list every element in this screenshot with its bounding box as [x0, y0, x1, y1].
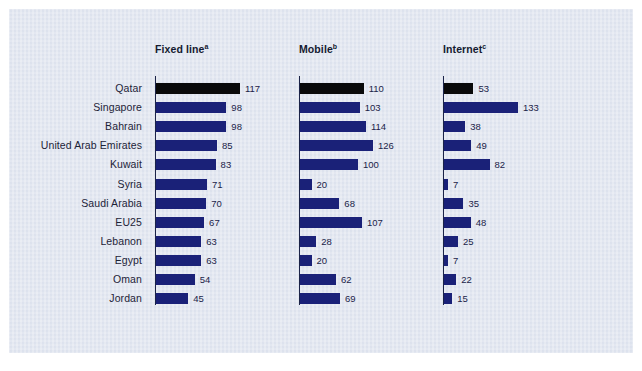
bar-value-label: 7: [453, 175, 458, 194]
bar-value-label: 69: [345, 289, 356, 308]
bar: [156, 198, 206, 209]
category-label: United Arab Emirates: [9, 136, 142, 155]
bar: [156, 255, 201, 266]
bar-value-label: 117: [245, 79, 260, 98]
bar-value-label: 85: [222, 136, 233, 155]
bar-value-label: 20: [317, 175, 328, 194]
category-label: Kuwait: [9, 155, 142, 174]
bar-value-label: 103: [365, 98, 381, 117]
panel-title-text: Mobile: [299, 43, 333, 55]
panel-title-internet: Internetc: [443, 43, 486, 55]
bar: [156, 217, 204, 228]
panel-title-mobile: Mobileb: [299, 43, 337, 55]
bar: [300, 198, 339, 209]
bar-value-label: 63: [206, 251, 217, 270]
panel-title-text: Fixed line: [155, 43, 204, 55]
bar: [156, 121, 226, 132]
panel-footnote-marker: c: [482, 43, 486, 50]
bar: [156, 274, 195, 285]
bar-value-label: 126: [378, 136, 394, 155]
chart-figure: QatarSingaporeBahrainUnited Arab Emirate…: [9, 9, 633, 353]
bar: [300, 217, 362, 228]
category-label: Oman: [9, 270, 142, 289]
bar-value-label: 53: [478, 79, 489, 98]
bar-value-label: 82: [495, 155, 506, 174]
bar: [444, 159, 490, 170]
bar-value-label: 107: [367, 213, 383, 232]
bar-value-label: 71: [212, 175, 223, 194]
bar: [444, 179, 448, 190]
bar: [300, 159, 358, 170]
bar-value-label: 45: [193, 289, 204, 308]
bar: [300, 140, 373, 151]
bar: [156, 179, 207, 190]
bar: [300, 121, 366, 132]
bar-value-label: 35: [468, 194, 479, 213]
category-label: EU25: [9, 213, 142, 232]
bar: [300, 293, 340, 304]
bar-value-label: 38: [470, 117, 481, 136]
bar-value-label: 98: [231, 98, 242, 117]
bar-value-label: 70: [211, 194, 222, 213]
panel-footnote-marker: b: [333, 43, 337, 50]
bar-value-label: 67: [209, 213, 220, 232]
bar: [156, 293, 188, 304]
panel-title-text: Internet: [443, 43, 482, 55]
bar: [300, 83, 364, 94]
bar: [300, 236, 316, 247]
bar-value-label: 100: [363, 155, 379, 174]
category-label: Egypt: [9, 251, 142, 270]
bar-value-label: 7: [453, 251, 458, 270]
bar: [300, 274, 336, 285]
bar: [444, 293, 452, 304]
panel-title-fixed-line: Fixed linea: [155, 43, 208, 55]
bar: [300, 255, 312, 266]
bar: [444, 255, 448, 266]
bar: [444, 236, 458, 247]
bar: [444, 121, 465, 132]
category-label: Lebanon: [9, 232, 142, 251]
category-label: Saudi Arabia: [9, 194, 142, 213]
bar: [156, 102, 226, 113]
bar: [444, 83, 473, 94]
category-label: Syria: [9, 175, 142, 194]
bar-value-label: 48: [476, 213, 487, 232]
bar-value-label: 54: [200, 270, 211, 289]
bar-value-label: 98: [231, 117, 242, 136]
bar: [300, 102, 360, 113]
bar: [156, 140, 217, 151]
bar-value-label: 63: [206, 232, 217, 251]
bar-value-label: 83: [221, 155, 232, 174]
category-label: Singapore: [9, 98, 142, 117]
bar: [444, 140, 471, 151]
bar-value-label: 28: [321, 232, 332, 251]
bar-value-label: 114: [371, 117, 386, 136]
category-label: Qatar: [9, 79, 142, 98]
bar-value-label: 49: [476, 136, 487, 155]
bar-value-label: 15: [457, 289, 468, 308]
bar-value-label: 25: [463, 232, 474, 251]
bar-value-label: 133: [523, 98, 539, 117]
bar-value-label: 110: [369, 79, 384, 98]
bar: [444, 198, 463, 209]
bar-value-label: 20: [317, 251, 328, 270]
panel-footnote-marker: a: [204, 43, 208, 50]
category-label: Bahrain: [9, 117, 142, 136]
bar: [156, 83, 240, 94]
bar: [156, 159, 216, 170]
bar-value-label: 68: [344, 194, 355, 213]
bar-value-label: 62: [341, 270, 352, 289]
category-label: Jordan: [9, 289, 142, 308]
bar: [444, 102, 518, 113]
bar: [156, 236, 201, 247]
bar: [444, 274, 456, 285]
bar: [300, 179, 312, 190]
bar: [444, 217, 471, 228]
bar-value-label: 22: [461, 270, 472, 289]
